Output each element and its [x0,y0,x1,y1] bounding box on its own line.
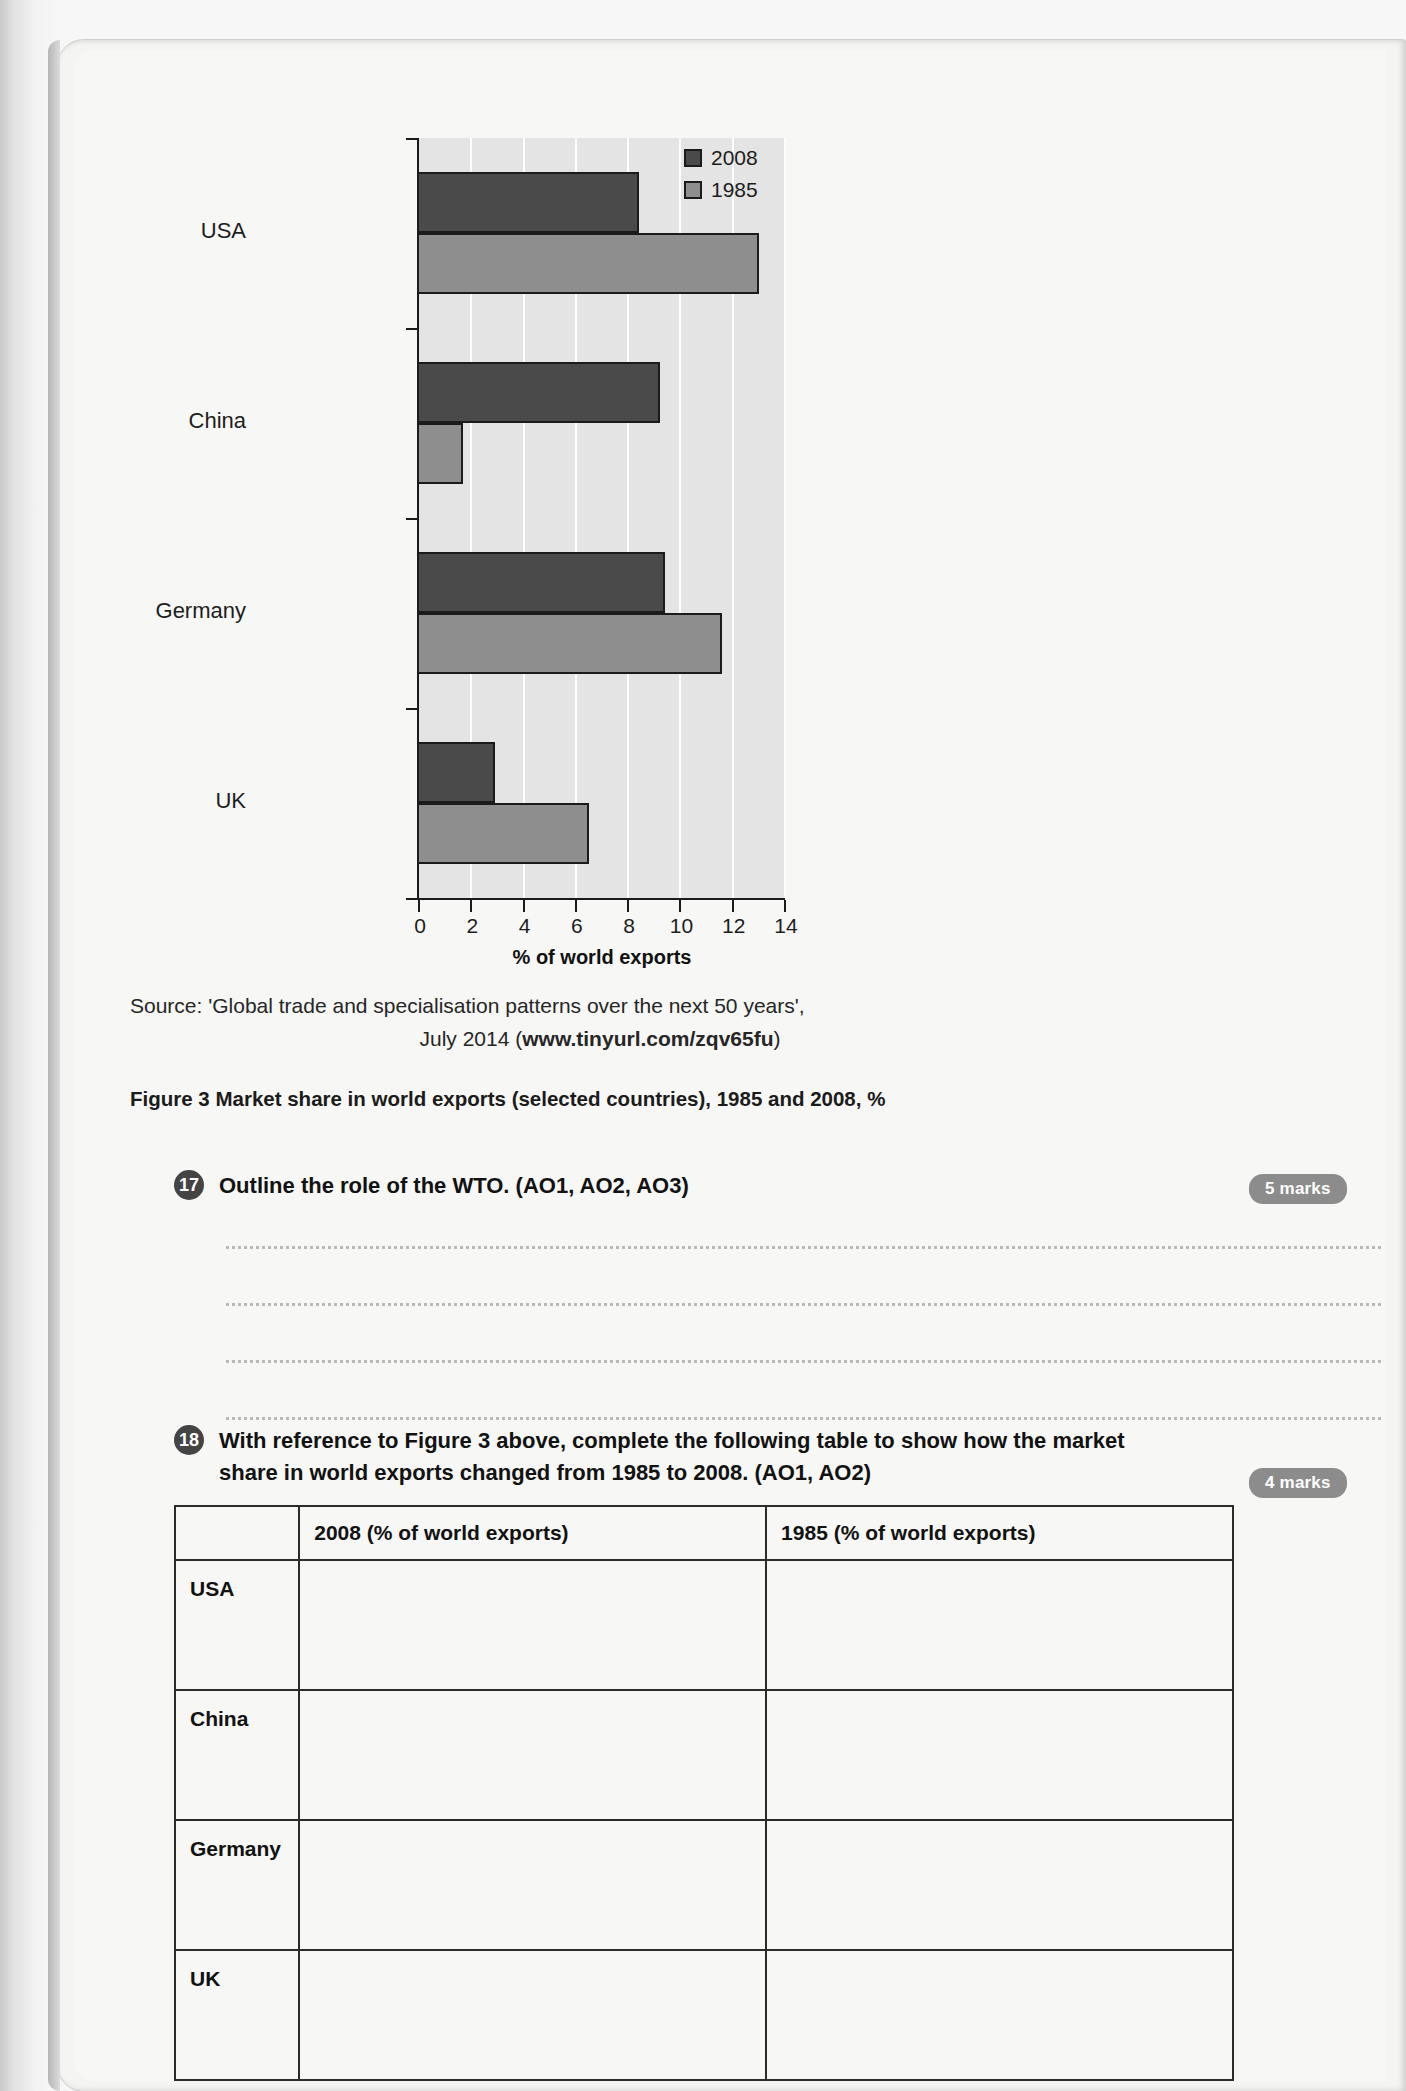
chart-x-tick [679,900,681,912]
answer-cell-1985-germany[interactable] [766,1820,1233,1950]
chart-y-tick [406,328,417,330]
answer-table-header-2: 1985 (% of world exports) [766,1506,1233,1560]
chart-x-tick [784,900,786,912]
chart-x-tick [575,900,577,912]
question-17-marks-badge: 5 marks [1249,1174,1347,1204]
legend-swatch-2008-icon [684,149,702,167]
chart-bar-uk-1985 [417,803,589,864]
chart-x-tick [732,900,734,912]
chart-y-tick [406,138,417,140]
chart-category-label-uk: UK [74,788,246,814]
answer-cell-2008-germany[interactable] [299,1820,766,1950]
chart-y-tick [406,708,417,710]
answer-line-4[interactable] [226,1417,1381,1420]
question-17-number: 17 [174,1170,204,1200]
answer-table-row: China [175,1690,1233,1820]
chart-y-tick [406,898,417,900]
answer-cell-2008-usa[interactable] [299,1560,766,1690]
chart-bar-uk-2008 [417,742,495,803]
question-17-text: Outline the role of the WTO. (AO1, AO2, … [219,1170,1234,1202]
answer-table-row-label-usa: USA [175,1560,299,1690]
chart-x-axis-title: % of world exports [419,946,785,969]
answer-table-header-row: 2008 (% of world exports)1985 (% of worl… [175,1506,1233,1560]
chart-bar-germany-2008 [417,552,665,613]
chart-y-tick [406,518,417,520]
question-18: 18 With reference to Figure 3 above, com… [174,1425,1184,1489]
chart-x-tick-label: 0 [400,914,440,938]
chart-category-label-china: China [74,408,246,434]
chart-x-tick-label: 6 [557,914,597,938]
source-line-2: July 2014 (www.tinyurl.com/zqv65fu) [130,1023,1310,1056]
source-line-1: Source: 'Global trade and specialisation… [130,990,1310,1023]
answer-line-2[interactable] [226,1303,1381,1306]
figure-source: Source: 'Global trade and specialisation… [130,990,1310,1055]
chart-x-tick-label: 10 [661,914,701,938]
page-background: 02468101214 USAChinaGermanyUK % of world… [0,0,1406,2091]
legend-item-2008: 2008 [684,146,758,170]
worksheet-sheet: 02468101214 USAChinaGermanyUK % of world… [58,40,1406,2091]
chart-legend: 2008 1985 [684,146,758,210]
chart-bar-usa-1985 [417,233,759,294]
answer-table-row: Germany [175,1820,1233,1950]
answer-table-row-label-germany: Germany [175,1820,299,1950]
chart-x-tick-label: 4 [505,914,545,938]
answer-cell-1985-usa[interactable] [766,1560,1233,1690]
question-18-number: 18 [174,1425,204,1455]
answer-table-header-0 [175,1506,299,1560]
chart-gridline [784,138,786,898]
chart-x-tick-label: 14 [766,914,806,938]
question-18-marks-badge: 4 marks [1249,1468,1347,1498]
answer-table: 2008 (% of world exports)1985 (% of worl… [174,1505,1234,2081]
legend-item-1985: 1985 [684,178,758,202]
legend-swatch-1985-icon [684,181,702,199]
chart-category-label-germany: Germany [74,598,246,624]
chart-bar-germany-1985 [417,613,722,674]
figure-caption: Figure 3 Market share in world exports (… [130,1087,1310,1111]
worksheet-content: 02468101214 USAChinaGermanyUK % of world… [74,50,1386,2081]
question-18-text: With reference to Figure 3 above, comple… [219,1425,1184,1489]
answer-table-header-1: 2008 (% of world exports) [299,1506,766,1560]
chart-x-tick [470,900,472,912]
chart-x-tick-label: 8 [609,914,649,938]
answer-cell-2008-uk[interactable] [299,1950,766,2080]
answer-line-1[interactable] [226,1246,1381,1249]
answer-line-3[interactable] [226,1360,1381,1363]
source-paren-close: ) [774,1027,781,1050]
chart-bar-china-1985 [417,423,463,484]
chart-x-tick [627,900,629,912]
chart-category-label-usa: USA [74,218,246,244]
answer-table-row-label-uk: UK [175,1950,299,2080]
answer-table-row-label-china: China [175,1690,299,1820]
chart-bar-china-2008 [417,362,660,423]
source-url: www.tinyurl.com/zqv65fu [522,1027,773,1050]
answer-cell-1985-uk[interactable] [766,1950,1233,2080]
answer-table-row: USA [175,1560,1233,1690]
chart-x-tick [523,900,525,912]
figure-3-bar-chart: 02468101214 USAChinaGermanyUK % of world… [254,128,954,958]
source-date: July 2014 ( [420,1027,523,1050]
chart-x-tick-label: 2 [452,914,492,938]
legend-label-2008: 2008 [711,146,758,170]
chart-x-tick [418,900,420,912]
chart-bar-usa-2008 [417,172,639,233]
chart-x-tick-label: 12 [714,914,754,938]
answer-table-row: UK [175,1950,1233,2080]
legend-label-1985: 1985 [711,178,758,202]
answer-cell-2008-china[interactable] [299,1690,766,1820]
answer-cell-1985-china[interactable] [766,1690,1233,1820]
question-17: 17 Outline the role of the WTO. (AO1, AO… [174,1170,1234,1202]
